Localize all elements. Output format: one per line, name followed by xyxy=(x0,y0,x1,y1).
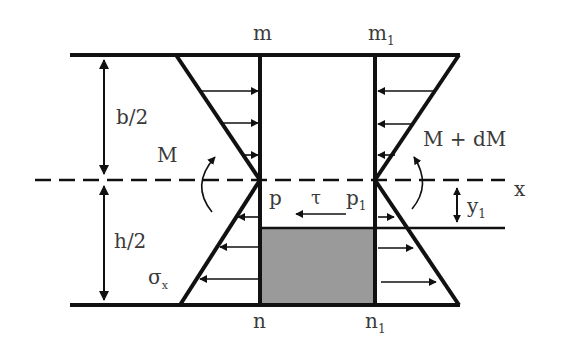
label-h-half: h/2 xyxy=(114,229,146,253)
label-x-axis: x xyxy=(514,177,526,201)
label-m1: m1 xyxy=(368,21,395,48)
label-n: n xyxy=(253,309,266,333)
label-sigma-x: σx xyxy=(148,265,169,292)
moment-left-arc-icon xyxy=(202,157,215,212)
label-b-half: b/2 xyxy=(116,105,148,129)
label-p: p xyxy=(269,186,282,210)
label-moment-right: M + dM xyxy=(423,127,506,151)
moment-right-arc-icon xyxy=(412,157,423,209)
left-stress-top-edge xyxy=(176,55,260,180)
shaded-region xyxy=(260,228,375,305)
right-stress-bottom-edge xyxy=(375,180,459,305)
label-tau: τ xyxy=(311,187,321,208)
label-n1: n1 xyxy=(365,309,386,336)
label-moment-left: M xyxy=(157,143,177,167)
left-top-stress-arrows xyxy=(202,91,258,155)
label-m: m xyxy=(253,21,272,45)
beam-element-diagram: m m1 n n1 p p1 τ x y1 b/2 h/2 M M + dM σ… xyxy=(0,0,561,363)
label-y1: y1 xyxy=(466,194,486,221)
label-p1: p1 xyxy=(346,186,366,213)
left-stress-bottom-edge xyxy=(180,180,260,305)
